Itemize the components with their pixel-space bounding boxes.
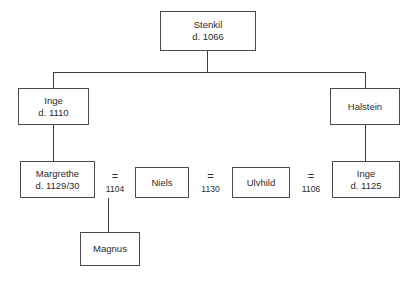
marriage-ulvhild-inge: = 1106 — [290, 168, 332, 198]
marriage-equals-sign: = — [112, 171, 118, 182]
node-halstein-name: Halstein — [348, 101, 382, 113]
node-inge-younger-name: Inge — [357, 168, 376, 180]
marriage-niels-ulvhild: = 1130 — [189, 168, 232, 198]
connector-stenkil-stem — [207, 51, 208, 72]
connector-halstein-to-inge-younger — [365, 125, 366, 161]
marriage-margrethe-niels: = 1104 — [95, 168, 135, 198]
node-inge-elder-death: d. 1110 — [38, 107, 68, 119]
connector-to-inge-elder — [53, 72, 54, 88]
node-inge-elder[interactable]: Inge d. 1110 — [18, 88, 89, 125]
node-magnus[interactable]: Magnus — [80, 232, 140, 266]
node-margrethe-death: d. 1129/30 — [35, 180, 79, 192]
node-magnus-name: Magnus — [93, 243, 127, 255]
connector-marriage-to-magnus — [108, 198, 109, 232]
marriage-equals-sign: = — [308, 171, 314, 182]
node-margrethe-name: Margrethe — [36, 168, 79, 180]
node-ulvhild-name: Ulvhild — [247, 177, 276, 189]
marriage-year: 1104 — [106, 184, 124, 195]
node-niels-name: Niels — [151, 177, 172, 189]
family-tree-diagram: Stenkil d. 1066 Inge d. 1110 Halstein Ma… — [0, 0, 417, 285]
node-inge-younger[interactable]: Inge d. 1125 — [332, 161, 400, 198]
node-ulvhild[interactable]: Ulvhild — [232, 167, 290, 198]
connector-generation1-bar — [53, 72, 366, 73]
marriage-year: 1130 — [201, 184, 219, 195]
node-inge-elder-name: Inge — [44, 95, 63, 107]
node-niels[interactable]: Niels — [135, 167, 189, 198]
connector-to-halstein — [365, 72, 366, 88]
connector-inge-elder-to-margrethe — [53, 125, 54, 161]
node-stenkil-death: d. 1066 — [192, 31, 224, 43]
node-stenkil[interactable]: Stenkil d. 1066 — [160, 11, 256, 51]
marriage-year: 1106 — [302, 184, 320, 195]
node-inge-younger-death: d. 1125 — [351, 180, 382, 192]
node-margrethe[interactable]: Margrethe d. 1129/30 — [20, 161, 95, 198]
node-stenkil-name: Stenkil — [194, 19, 223, 31]
node-halstein[interactable]: Halstein — [330, 88, 400, 125]
marriage-equals-sign: = — [207, 171, 213, 182]
